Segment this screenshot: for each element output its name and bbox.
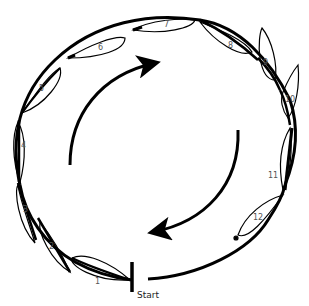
leaf-8 xyxy=(200,20,258,60)
leaf-label-10: 10 xyxy=(285,95,295,104)
leaf-label-11: 11 xyxy=(268,171,278,180)
leaf-label-1: 1 xyxy=(95,277,100,286)
leaf-1 xyxy=(72,256,130,280)
leaf-6 xyxy=(68,37,125,58)
leaf-label-6: 6 xyxy=(98,43,103,52)
right-arc-arrow xyxy=(153,130,238,232)
leaf-label-7: 7 xyxy=(164,20,169,29)
leaf-label-4: 4 xyxy=(21,141,26,150)
leaf-label-12: 12 xyxy=(253,213,263,222)
leaf-11 xyxy=(280,128,292,190)
leaf-label-2: 2 xyxy=(49,242,54,251)
leaf-label-9: 9 xyxy=(263,58,268,67)
cycle-diagram: 1 2 3 4 5 6 7 8 9 10 11 12 Start xyxy=(0,0,309,306)
start-label: Start xyxy=(137,290,159,300)
leaf-label-8: 8 xyxy=(228,41,233,50)
outer-track-arc xyxy=(16,17,295,185)
left-arc-arrow xyxy=(70,63,155,165)
leaf-label-5: 5 xyxy=(39,84,44,93)
leaf-9 xyxy=(258,28,280,90)
leaf-label-3: 3 xyxy=(23,205,28,214)
